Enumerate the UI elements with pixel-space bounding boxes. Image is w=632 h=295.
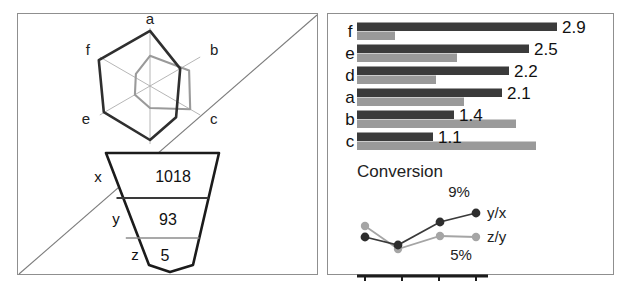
radar-grid — [100, 28, 200, 144]
bar-value-label-a: 2.1 — [507, 84, 531, 103]
legend-label-y-over-x: y/x — [487, 204, 507, 221]
screenshot-root: a b c e f x y z 1018 93 — [0, 0, 632, 295]
radar-axis-label-c: c — [210, 110, 218, 127]
bar-category-label-f: f — [348, 22, 353, 41]
left-panel: a b c e f x y z 1018 93 — [17, 13, 318, 275]
annotation-top-percent: 9% — [448, 183, 470, 200]
bar-primary-d — [357, 67, 509, 76]
bar-row: b 1.4 — [345, 106, 516, 129]
funnel-chart: x y z 1018 93 5 — [94, 153, 219, 272]
radar-series-dark — [99, 31, 180, 140]
bar-value-label-f: 2.9 — [562, 18, 586, 37]
bar-row: a 2.1 — [345, 84, 530, 107]
funnel-value-x: 1018 — [155, 168, 191, 185]
bar-row: d 2.2 — [345, 62, 537, 85]
conversion-line-chart: Conversion — [357, 162, 507, 281]
line-series-y-over-x — [365, 213, 476, 245]
bar-secondary-b — [357, 120, 516, 129]
bar-primary-b — [357, 111, 454, 120]
bar-category-label-b: b — [345, 110, 354, 129]
bar-secondary-a — [357, 98, 464, 107]
bar-value-label-d: 2.2 — [514, 62, 538, 81]
right-panel-canvas: f 2.9 e 2.5 d 2.2 — [328, 14, 615, 276]
bar-category-label-d: d — [345, 66, 354, 85]
funnel-value-z: 5 — [161, 247, 170, 264]
x-axis — [357, 276, 488, 281]
bar-category-label-a: a — [345, 88, 355, 107]
bar-category-label-c: c — [346, 132, 355, 151]
bar-primary-c — [357, 133, 433, 142]
bar-chart: f 2.9 e 2.5 d 2.2 — [345, 18, 585, 151]
bar-secondary-f — [357, 32, 395, 41]
bar-row: f 2.9 — [348, 18, 586, 41]
annotation-bottom-percent: 5% — [450, 246, 472, 263]
bar-secondary-e — [357, 54, 457, 63]
line-markers-y-over-x — [361, 209, 481, 250]
left-panel-canvas: a b c e f x y z 1018 93 — [18, 14, 319, 276]
funnel-value-y: 93 — [159, 211, 177, 228]
radar-axis-label-f: f — [86, 41, 91, 58]
bar-row: e 2.5 — [345, 40, 557, 63]
radar-axis-label-e: e — [82, 110, 90, 127]
funnel-stage-label-z: z — [131, 246, 139, 263]
bar-row: c 1.1 — [346, 128, 536, 151]
conversion-chart-title: Conversion — [357, 162, 443, 181]
legend-label-z-over-y: z/y — [487, 228, 507, 245]
bar-primary-f — [357, 23, 557, 32]
bar-value-label-b: 1.4 — [459, 106, 483, 125]
bar-primary-e — [357, 45, 529, 54]
radar-chart: a b c e f — [82, 10, 219, 144]
bar-secondary-d — [357, 76, 436, 85]
right-panel: f 2.9 e 2.5 d 2.2 — [327, 13, 614, 275]
bar-category-label-e: e — [345, 44, 354, 63]
radar-axis-label-a: a — [146, 10, 155, 27]
bar-value-label-e: 2.5 — [534, 40, 558, 59]
radar-axis-label-b: b — [210, 41, 218, 58]
bar-primary-a — [357, 89, 502, 98]
funnel-stage-label-y: y — [112, 210, 120, 227]
bar-value-label-c: 1.1 — [438, 128, 462, 147]
funnel-stage-label-x: x — [94, 168, 102, 185]
